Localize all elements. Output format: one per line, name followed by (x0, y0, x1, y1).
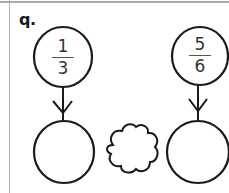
fraction-right-denominator: 6 (185, 58, 215, 75)
fraction-left-denominator: 3 (48, 60, 78, 77)
answer-circle-left[interactable] (34, 121, 94, 183)
fraction-left: 1 3 (48, 38, 78, 77)
arrow-down-right-icon (189, 85, 207, 121)
fraction-right: 5 6 (185, 36, 215, 75)
arrow-down-left-icon (53, 87, 72, 121)
fraction-left-numerator: 1 (48, 38, 78, 55)
answer-circle-right[interactable] (167, 121, 229, 183)
worksheet-drawing (0, 0, 229, 193)
fraction-right-numerator: 5 (185, 36, 215, 53)
comparison-cloud[interactable] (107, 124, 157, 172)
